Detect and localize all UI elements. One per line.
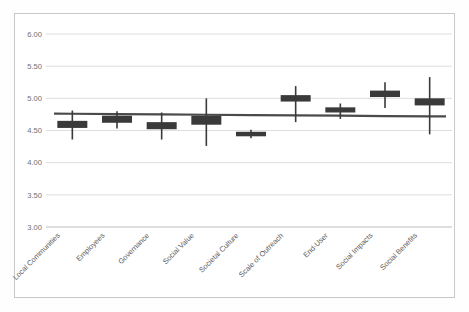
marker-box [191, 116, 221, 125]
y-axis-tick-label: 6.00 [27, 30, 42, 39]
x-axis-tick-label: End-User [301, 231, 330, 260]
data-marker [147, 112, 177, 139]
x-axis-tick-label: Governance [116, 231, 151, 266]
y-axis-tick-label: 5.00 [27, 94, 42, 103]
y-axis-tick-label: 5.50 [27, 62, 42, 71]
x-axis-tick-label: Social Value [161, 231, 196, 266]
data-marker [370, 82, 400, 108]
y-axis-tick-label: 4.00 [27, 158, 42, 167]
x-axis-tick-label: Social Impacts [334, 231, 375, 272]
data-marker [281, 86, 311, 122]
chart-container: 3.003.504.004.505.005.506.00 Local Commu… [0, 0, 469, 312]
marker-box [370, 91, 400, 97]
y-axis-tick-labels: 3.003.504.004.505.005.506.00 [27, 30, 42, 232]
data-marker [191, 98, 221, 146]
x-axis-tick-label: Social Benefits [378, 231, 419, 272]
x-axis-tick-label: Local Communities [11, 231, 62, 282]
marker-box [415, 98, 445, 105]
chart-canvas: 3.003.504.004.505.005.506.00 Local Commu… [0, 0, 469, 312]
marker-box [236, 132, 266, 137]
data-marker [236, 130, 266, 138]
y-axis-tick-label: 3.50 [27, 191, 42, 200]
x-axis-tick-label: Scale of Outreach [237, 231, 285, 279]
y-axis-tick-label: 3.00 [27, 223, 42, 232]
x-axis-tick-label: Employees [74, 231, 106, 263]
x-axis-tick-labels: Local CommunitiesEmployeesGovernanceSoci… [11, 231, 419, 282]
x-axis-tick-label: Societal Culture [197, 231, 240, 274]
y-axis-tick-label: 4.50 [27, 126, 42, 135]
data-marker [415, 77, 445, 134]
marker-box [281, 95, 311, 101]
marker-box [325, 107, 355, 112]
marker-box [102, 116, 132, 123]
gridlines-group [46, 34, 452, 227]
marker-box [57, 121, 87, 128]
data-markers-group [57, 77, 444, 146]
marker-box [147, 122, 177, 129]
